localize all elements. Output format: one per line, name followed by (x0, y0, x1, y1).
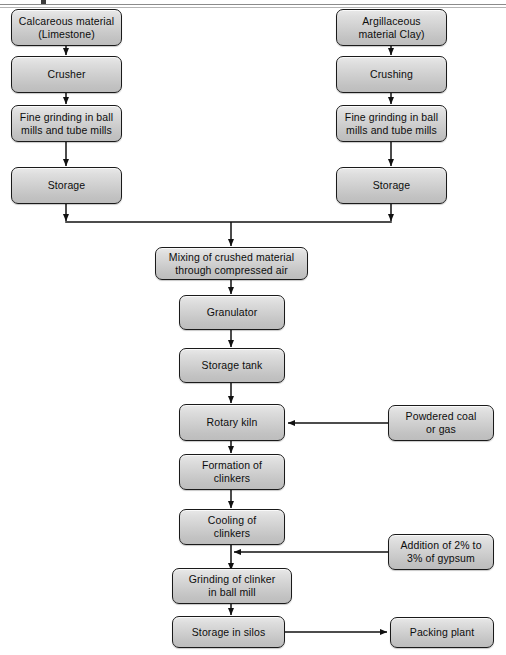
node-mixing-crushed-material[interactable]: Mixing of crushed material through compr… (155, 247, 308, 280)
node-cooling-of-clinkers[interactable]: Cooling of clinkers (179, 509, 285, 545)
node-fine-grinding-left[interactable]: Fine grinding in ball mills and tube mil… (11, 105, 122, 142)
node-fine-grinding-right[interactable]: Fine grinding in ball mills and tube mil… (336, 105, 447, 142)
node-storage-in-silos[interactable]: Storage in silos (172, 616, 285, 648)
node-grinding-of-clinker[interactable]: Grinding of clinker in ball mill (172, 568, 292, 604)
node-powdered-coal-or-gas[interactable]: Powdered coal or gas (388, 405, 494, 441)
node-rotary-kiln[interactable]: Rotary kiln (179, 404, 285, 441)
node-calcareous-material[interactable]: Calcareous material (Limestone) (11, 9, 122, 46)
header-rule-secondary (0, 7, 506, 8)
node-crusher[interactable]: Crusher (11, 56, 122, 93)
node-storage-tank[interactable]: Storage tank (179, 348, 285, 383)
node-packing-plant[interactable]: Packing plant (390, 617, 494, 648)
node-granulator[interactable]: Granulator (179, 295, 285, 330)
node-addition-of-gypsum[interactable]: Addition of 2% to 3% of gypsum (388, 534, 494, 570)
header-glyph-fragment (41, 0, 46, 4)
node-formation-of-clinkers[interactable]: Formation of clinkers (179, 454, 285, 490)
node-crushing[interactable]: Crushing (336, 56, 447, 93)
node-storage-left[interactable]: Storage (11, 167, 122, 204)
flowchart-canvas: Calcareous material (Limestone) Crusher … (0, 0, 506, 655)
node-storage-right[interactable]: Storage (336, 167, 447, 204)
header-rule (0, 4, 506, 5)
node-argillaceous-material[interactable]: Argillaceous material Clay) (336, 9, 447, 46)
